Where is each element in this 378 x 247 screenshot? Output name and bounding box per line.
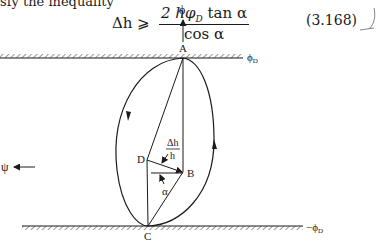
bottom-boundary-hatch — [22, 226, 303, 230]
pencil-mark — [360, 8, 375, 30]
point-c-label: C — [144, 230, 151, 242]
ratio-pointer-arrow — [162, 154, 168, 163]
ratio-numerator-label: Δh — [167, 137, 178, 148]
orbit-arrow-left — [126, 111, 131, 121]
bottom-boundary-label: −ϕD — [306, 221, 323, 235]
psi-axis-label: ψ — [1, 160, 9, 174]
point-b-label: B — [187, 167, 194, 179]
phi-axis-label: ϕ — [179, 3, 185, 17]
vector-d-b — [147, 160, 182, 172]
top-boundary-hatch — [0, 54, 243, 58]
phase-diagram: ϕ ψ A B C D Δh h α ϕD −ϕD — [0, 0, 378, 247]
ratio-denominator-label: h — [170, 150, 175, 161]
orbit-right — [148, 58, 214, 226]
angle-pointer-arrow — [160, 175, 164, 184]
point-d-label: D — [137, 153, 145, 165]
angle-label: α — [162, 185, 168, 197]
point-a-label: A — [179, 42, 187, 54]
line-d-c — [147, 160, 148, 226]
line-b-c — [148, 172, 183, 226]
top-boundary-label: ϕD — [247, 51, 258, 65]
